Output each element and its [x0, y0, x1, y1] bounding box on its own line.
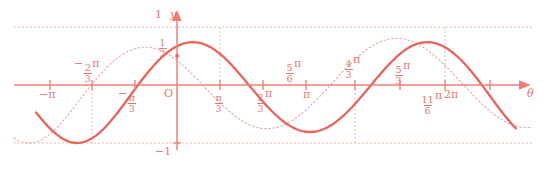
x-tick-label-four-thirds-pi: 4 3 π	[344, 54, 360, 80]
x-tick-label-pi: π	[303, 89, 310, 100]
fraction-two-thirds: 2 3	[257, 93, 265, 113]
x-tick-label-two-pi: 2π	[444, 89, 458, 100]
pi-symbol: π	[265, 87, 272, 100]
fraction-pi-over-three: π 3	[128, 93, 136, 113]
sine-curve-figure: 1 y 1 2 −1 O −π − 2 3 π − π 3 π 3	[0, 0, 543, 187]
fraction-five-sixths: 5 6	[286, 63, 294, 83]
y-axis-label: y	[170, 9, 176, 20]
x-tick-label-neg-two-thirds-pi: − 2 3 π	[74, 58, 100, 84]
pi-symbol: π	[294, 57, 301, 70]
y-tick-label-minus-one: −1	[155, 146, 171, 157]
x-tick-label-five-thirds-pi: 5 3 π	[394, 60, 410, 86]
fraction-one-half: 1 2	[159, 38, 167, 58]
pi-symbol: π	[403, 59, 410, 72]
fraction-pi-over-three: π 3	[215, 93, 223, 113]
x-tick-label-five-sixths-pi: 5 6 π	[285, 58, 301, 84]
fraction-two-thirds: 2 3	[84, 63, 92, 83]
pi-symbol: π	[353, 53, 360, 66]
x-tick-label-neg-pi: −π	[39, 89, 55, 100]
minus-sign: −	[74, 57, 83, 70]
x-tick-label-two-thirds-pi: 2 3 π	[256, 88, 272, 114]
origin-label: O	[164, 88, 173, 99]
x-tick-label-pi-third: π 3	[214, 88, 223, 114]
y-tick-label-one: 1	[155, 9, 162, 20]
fraction-eleven-sixths: 11 6	[421, 95, 435, 115]
x-axis-label: θ	[527, 88, 534, 99]
x-tick-label-neg-pi-third: − π 3	[118, 88, 136, 114]
minus-sign: −	[118, 87, 127, 100]
fraction-five-thirds: 5 3	[395, 65, 403, 85]
pi-symbol: π	[435, 89, 442, 102]
pi-symbol: π	[92, 57, 99, 70]
y-intercept-marker	[175, 54, 179, 58]
x-tick-label-eleven-sixths-pi: 11 6 π	[420, 90, 442, 116]
fraction-four-thirds: 4 3	[345, 59, 353, 79]
y-tick-label-half: 1 2	[158, 33, 167, 59]
